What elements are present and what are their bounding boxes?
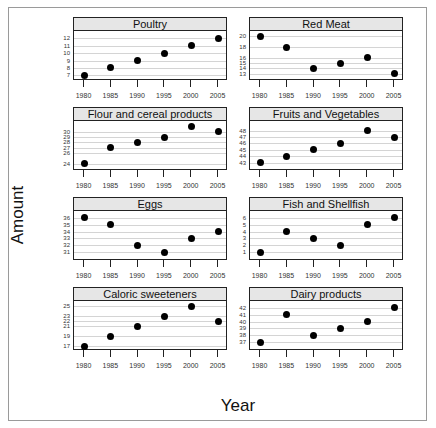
y-tick-label: 29 — [63, 134, 70, 140]
panel-strip-title: Dairy products — [249, 287, 403, 301]
y-tick-label: 12 — [63, 35, 70, 41]
x-tick-mark — [339, 350, 340, 357]
gridline — [250, 218, 402, 219]
x-tick-mark — [83, 80, 84, 87]
gridline — [250, 150, 402, 151]
y-tick-label: 4 — [243, 229, 246, 235]
x-tick-mark — [190, 80, 191, 87]
data-point — [310, 146, 317, 153]
x-tick-label: 2005 — [210, 362, 226, 369]
x-tick-mark — [313, 170, 314, 177]
plot-area: 123456 — [249, 210, 403, 260]
data-point — [283, 153, 290, 160]
data-point — [161, 249, 168, 256]
x-tick-mark — [393, 350, 394, 357]
x-tick-mark — [163, 170, 164, 177]
plot-area: 171921222325 — [73, 300, 227, 350]
x-tick-mark — [313, 350, 314, 357]
gridline — [250, 225, 402, 226]
x-tick-mark — [163, 350, 164, 357]
x-tick-mark — [110, 260, 111, 267]
x-tick-label: 1980 — [252, 362, 268, 369]
gridline — [74, 326, 226, 327]
x-tick-label: 1995 — [156, 92, 172, 99]
data-point — [188, 123, 195, 130]
x-tick-mark — [163, 260, 164, 267]
x-tick-label: 1990 — [305, 92, 321, 99]
y-tick-label: 20 — [239, 33, 246, 39]
x-tick-label: 1980 — [252, 92, 268, 99]
data-point — [310, 332, 317, 339]
x-axis-label: Year — [221, 396, 255, 416]
x-tick-label: 1995 — [156, 362, 172, 369]
gridline — [74, 68, 226, 69]
gridline — [250, 232, 402, 233]
x-tick-label: 1985 — [279, 92, 295, 99]
data-point — [391, 70, 398, 77]
x-tick-label: 2000 — [359, 92, 375, 99]
data-point — [257, 33, 264, 40]
gridline — [74, 316, 226, 317]
y-tick-label: 42 — [239, 305, 246, 311]
gridline — [250, 63, 402, 64]
gridline — [74, 142, 226, 143]
x-tick-label: 1985 — [279, 182, 295, 189]
gridline — [250, 163, 402, 164]
x-tick-label: 1995 — [156, 272, 172, 279]
data-point — [134, 57, 141, 64]
gridline — [250, 47, 402, 48]
gridline — [74, 232, 226, 233]
x-tick-mark — [393, 170, 394, 177]
data-point — [337, 140, 344, 147]
gridline — [250, 74, 402, 75]
x-tick-mark — [190, 350, 191, 357]
panel-strip-title: Fish and Shellfish — [249, 197, 403, 211]
gridline — [250, 238, 402, 239]
gridline — [74, 238, 226, 239]
data-point — [215, 128, 222, 135]
x-tick-label: 1985 — [279, 272, 295, 279]
y-tick-label: 1 — [243, 249, 246, 255]
x-tick-mark — [339, 80, 340, 87]
gridline — [74, 53, 226, 54]
panel-strip-title: Fruits and Vegetables — [249, 107, 403, 121]
x-tick-mark — [137, 260, 138, 267]
gridline — [74, 306, 226, 307]
y-tick-label: 48 — [239, 128, 246, 134]
gridline — [250, 68, 402, 69]
data-point — [134, 242, 141, 249]
gridline — [74, 336, 226, 337]
y-tick-label: 47 — [239, 134, 246, 140]
y-tick-label: 44 — [239, 153, 246, 159]
data-point — [161, 134, 168, 141]
x-tick-mark — [259, 260, 260, 267]
gridline — [250, 335, 402, 336]
y-tick-label: 45 — [239, 147, 246, 153]
panel-strip-title: Flour and cereal products — [73, 107, 227, 121]
gridline — [74, 225, 226, 226]
x-tick-mark — [83, 260, 84, 267]
plot-area: 242627282930 — [73, 120, 227, 170]
x-tick-label: 1995 — [332, 182, 348, 189]
x-tick-label: 1980 — [252, 182, 268, 189]
data-point — [215, 228, 222, 235]
y-tick-label: 17 — [63, 343, 70, 349]
y-tick-label: 27 — [63, 145, 70, 151]
data-point — [364, 318, 371, 325]
x-tick-mark — [137, 80, 138, 87]
x-tick-label: 1980 — [252, 272, 268, 279]
y-tick-label: 6 — [243, 215, 246, 221]
x-tick-label: 1990 — [129, 272, 145, 279]
x-tick-label: 1985 — [279, 362, 295, 369]
gridline — [74, 46, 226, 47]
y-tick-label: 39 — [239, 325, 246, 331]
x-tick-mark — [286, 350, 287, 357]
x-tick-label: 2000 — [359, 182, 375, 189]
gridline — [250, 252, 402, 253]
data-point — [107, 144, 114, 151]
data-point — [310, 235, 317, 242]
data-point — [81, 343, 88, 350]
x-tick-mark — [366, 260, 367, 267]
data-point — [391, 214, 398, 221]
x-tick-label: 1995 — [332, 92, 348, 99]
